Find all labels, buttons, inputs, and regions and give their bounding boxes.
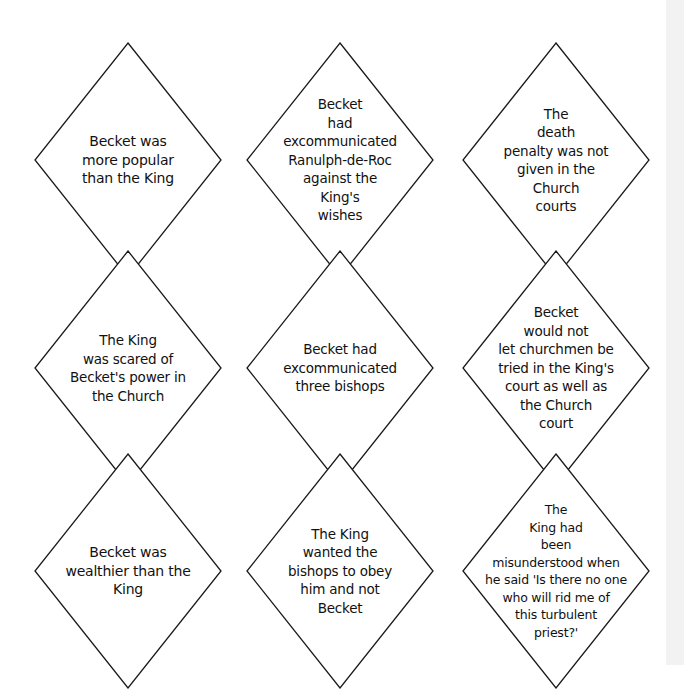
text-line: he said 'Is there no one (485, 571, 627, 589)
text-line: Becket had (303, 340, 377, 359)
diamond-text: Becket would not let churchmen be tried … (486, 250, 626, 486)
diamond-card-6: Becket would not let churchmen be tried … (462, 250, 650, 486)
text-line: three bishops (295, 377, 384, 396)
text-line: than the King (82, 169, 174, 188)
diamond-card-9: The King had been misunderstood when he … (462, 453, 650, 689)
text-line: court (539, 414, 573, 433)
text-line: given in the (517, 160, 595, 179)
text-line: this turbulent (515, 606, 597, 624)
diamond-text: Becket was more popular than the King (58, 42, 198, 278)
text-line: been (541, 536, 571, 554)
text-line: death (537, 123, 575, 142)
page-edge (666, 0, 684, 665)
text-line: Becket (318, 95, 363, 114)
text-line: court as well as (505, 377, 607, 396)
diamond-text: The King had been misunderstood when he … (468, 453, 644, 689)
text-line: wealthier than the (65, 562, 190, 581)
diamond-text: Becket had excommunicated three bishops (270, 250, 410, 486)
diamond-card-7: Becket was wealthier than the King (34, 453, 222, 689)
text-line: Becket (318, 599, 363, 618)
text-line: The King (311, 525, 369, 544)
diamond-card-8: The King wanted the bishops to obey him … (246, 453, 434, 689)
text-line: The (545, 501, 568, 519)
text-line: tried in the King's (498, 359, 613, 378)
text-line: Ranulph-de-Roc (288, 151, 392, 170)
diamond-card-3: The death penalty was not given in the C… (462, 42, 650, 278)
text-line: Church (533, 179, 580, 198)
text-line: bishops to obey (288, 562, 392, 581)
text-line: excommunicated (283, 132, 397, 151)
text-line: courts (536, 197, 577, 216)
text-line: Becket was (89, 132, 166, 151)
diamond-card-4: The King was scared of Becket's power in… (34, 250, 222, 486)
text-line: wishes (318, 206, 363, 225)
text-line: The (544, 105, 569, 124)
text-line: the Church (92, 387, 164, 406)
text-line: King's (320, 188, 359, 207)
text-line: King (113, 580, 143, 599)
diamond-card-5: Becket had excommunicated three bishops (246, 250, 434, 486)
text-line: him and not (300, 580, 379, 599)
text-line: excommunicated (283, 359, 397, 378)
diamond-text: The King was scared of Becket's power in… (58, 250, 198, 486)
text-line: priest?' (534, 624, 578, 642)
text-line: Becket was (89, 543, 166, 562)
text-line: who will rid me of (502, 589, 609, 607)
text-line: Becket's power in (70, 368, 186, 387)
text-line: wanted the (303, 543, 378, 562)
text-line: penalty was not (504, 142, 609, 161)
text-line: was scared of (83, 350, 173, 369)
text-line: the Church (520, 396, 592, 415)
text-line: let churchmen be (498, 340, 613, 359)
diamond-text: Becket was wealthier than the King (58, 453, 198, 689)
text-line: had (328, 114, 353, 133)
diamond-card-2: Becket had excommunicated Ranulph-de-Roc… (246, 42, 434, 278)
diamond-text: The King wanted the bishops to obey him … (270, 453, 410, 689)
diamond-card-1: Becket was more popular than the King (34, 42, 222, 278)
text-line: King had (529, 519, 582, 537)
text-line: Becket (534, 303, 579, 322)
text-line: The King (99, 331, 157, 350)
diamond-text: Becket had excommunicated Ranulph-de-Roc… (270, 42, 410, 278)
text-line: would not (524, 322, 589, 341)
text-line: misunderstood when (492, 554, 620, 572)
diamond-text: The death penalty was not given in the C… (486, 42, 626, 278)
text-line: more popular (82, 151, 174, 170)
text-line: against the (303, 169, 377, 188)
